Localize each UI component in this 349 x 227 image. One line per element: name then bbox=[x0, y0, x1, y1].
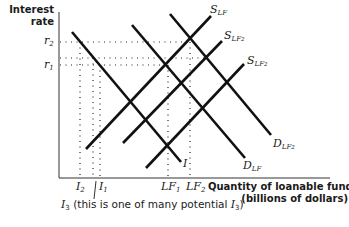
tick-lf2: LF2 bbox=[186, 180, 205, 194]
demand-curve-dlf2 bbox=[170, 14, 271, 135]
tick-i2: I2 bbox=[76, 180, 85, 194]
label-slf2-b: SLF2 bbox=[247, 54, 268, 68]
tick-i1: I1 bbox=[99, 180, 108, 194]
supply-curve-slf bbox=[86, 16, 211, 149]
x-axis-title-line1: Quantity of loanable funds bbox=[208, 181, 348, 193]
tick-lf1: LF1 bbox=[161, 180, 180, 194]
i3-caption: I3 (this is one of many potential I3) bbox=[61, 198, 244, 212]
label-slf: SLF bbox=[210, 3, 227, 17]
y-axis-title: Interest rate bbox=[4, 4, 54, 28]
label-dlf: DLF bbox=[243, 159, 261, 173]
label-slf2-a: SLF2 bbox=[224, 29, 245, 43]
y-axis-title-line1: Interest bbox=[4, 4, 54, 16]
tick-r1: r1 bbox=[44, 58, 54, 72]
demand-curve-dlf bbox=[132, 25, 245, 158]
supply-curve-slf2-b bbox=[146, 64, 244, 168]
y-axis-title-line2: rate bbox=[4, 16, 54, 28]
tick-r2: r2 bbox=[44, 34, 54, 48]
investment-curve bbox=[72, 32, 181, 162]
i3-pointer bbox=[94, 181, 96, 199]
label-i: I bbox=[183, 157, 187, 170]
label-dlf2: DLF2 bbox=[273, 137, 295, 151]
